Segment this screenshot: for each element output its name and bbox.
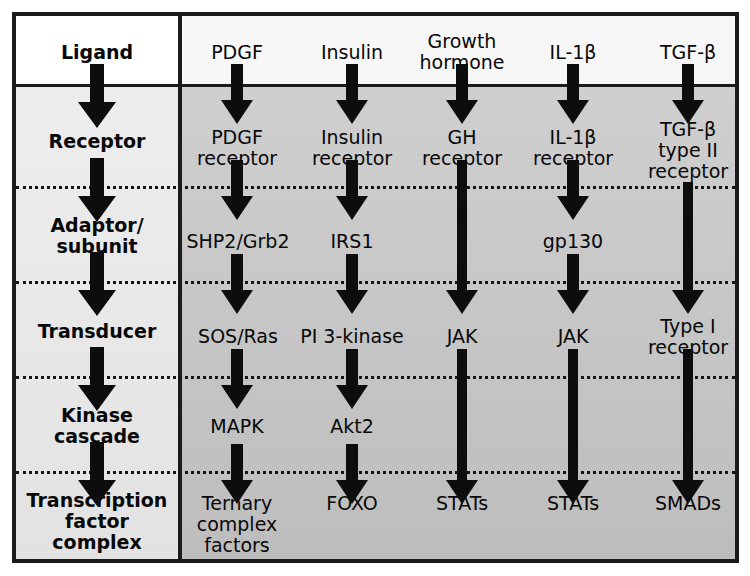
insulin-arrow-chain <box>327 64 377 564</box>
pdgf-ligand: PDGF <box>182 42 292 63</box>
figure-frame: Ligand Receptor Adaptor/ subunit Transdu… <box>12 12 739 563</box>
tgfb-ligand: TGF-β <box>633 42 743 63</box>
insulin-ligand: Insulin <box>297 42 407 63</box>
pathway-figure: Ligand Receptor Adaptor/ subunit Transdu… <box>0 0 750 576</box>
gh-arrow-chain <box>437 64 487 564</box>
stage-label-ligand: Ligand <box>16 42 178 63</box>
il1b-ligand: IL-1β <box>518 42 628 63</box>
column-divider <box>178 16 182 559</box>
tgfb-arrow-chain <box>663 64 713 564</box>
stage-cascade-arrow <box>16 64 178 564</box>
pdgf-arrow-chain <box>212 64 262 564</box>
il1b-arrow-chain <box>548 64 598 564</box>
